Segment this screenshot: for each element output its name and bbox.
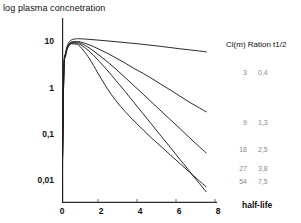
x-tick-label: 2	[94, 206, 108, 216]
legend-cl-value: 3	[229, 69, 247, 76]
x-axis-title: half-life	[242, 200, 272, 210]
legend-row: 182,5	[222, 146, 301, 157]
legend-row: 273,8	[222, 165, 301, 176]
legend-row: 91,3	[222, 119, 301, 130]
curve-series-3	[62, 39, 206, 201]
x-tick-label: 0	[55, 206, 69, 216]
y-tick-label: 1	[28, 83, 54, 93]
plot-area	[62, 18, 217, 203]
legend-header: Cl(m) Ration t1/2	[226, 40, 286, 49]
chart-figure: log plasma concnetration 1010,10,01 0246…	[0, 0, 301, 223]
legend-cl-value: 9	[229, 119, 247, 126]
legend-row: 30,4	[222, 69, 301, 80]
legend-ratio-value: 2,5	[258, 146, 282, 153]
legend-ratio-value: 7,5	[258, 178, 282, 185]
curve-canvas	[62, 18, 217, 203]
x-tick-label: 6	[172, 206, 186, 216]
x-tick-label: 8	[211, 206, 225, 216]
x-tick-label: 4	[133, 206, 147, 216]
y-tick-label: 0,01	[28, 175, 54, 185]
curve-series-27	[62, 43, 206, 201]
legend-ratio-value: 1,3	[258, 119, 282, 126]
y-axis-title: log plasma concnetration	[3, 3, 105, 13]
y-tick-label: 0,1	[28, 129, 54, 139]
legend-cl-value: 27	[229, 165, 247, 172]
data-curves	[62, 39, 206, 201]
legend-ratio-value: 0,4	[258, 69, 282, 76]
legend-cl-value: 54	[229, 178, 247, 185]
legend-row: 547,5	[222, 178, 301, 189]
curve-series-54	[62, 44, 206, 201]
legend: Cl(m) Ration t1/2 30,491,3182,5273,8547,…	[222, 40, 301, 190]
legend-ratio-value: 3,8	[258, 165, 282, 172]
y-tick-label: 10	[28, 36, 54, 46]
legend-cl-value: 18	[229, 146, 247, 153]
